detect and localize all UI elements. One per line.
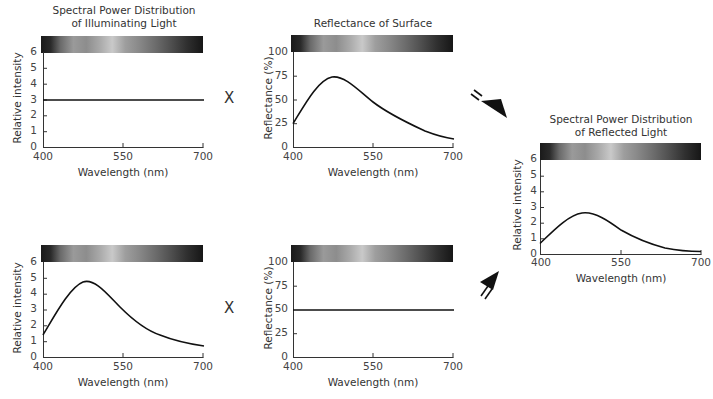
plot-area xyxy=(0,0,713,399)
data-curve xyxy=(540,213,701,252)
